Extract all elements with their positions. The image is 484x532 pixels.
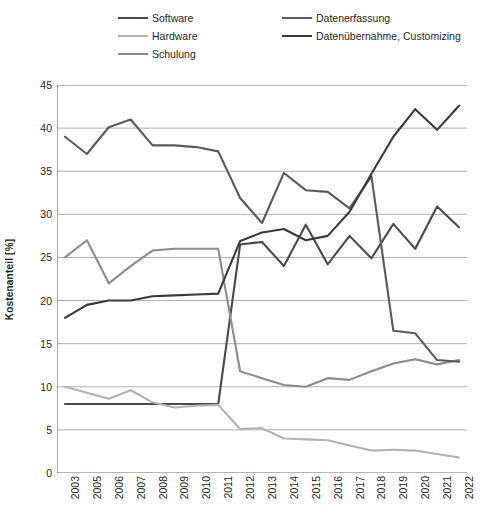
x-tick-label: 2006 [113,476,125,499]
x-tick-label: 2010 [200,476,212,499]
y-axis-ticks: 051015202530354045 [26,85,52,473]
series-line-daten-bernahme-customizing [65,106,459,318]
y-tick-label: 5 [28,424,52,436]
series-line-hardware [65,387,459,458]
legend-swatch-icon [118,17,148,20]
legend-label: Schulung [152,48,196,60]
chart-legend: SoftwareHardwareSchulungDatenerfassungDa… [0,12,484,68]
legend-swatch-icon [118,53,148,56]
legend-swatch-icon [282,35,312,38]
y-tick-label: 45 [28,79,52,91]
x-tick-label: 2021 [441,476,453,499]
x-tick-label: 2022 [463,476,475,499]
series-line-schulung [65,240,459,387]
legend-label: Software [152,12,193,24]
legend-item-datenerfassung: Datenerfassung [282,12,390,24]
y-tick-label: 0 [28,467,52,479]
y-tick-label: 20 [28,295,52,307]
x-tick-label: 2015 [310,476,322,499]
x-axis-ticks: 2003200520062007200820092010201120122013… [57,476,467,528]
legend-item-daten-bernahme-customizing: Datenübernahme, Customizing [282,30,461,42]
x-tick-label: 2017 [354,476,366,499]
y-tick-label: 25 [28,251,52,263]
plot-area [57,85,467,473]
x-tick-label: 2009 [178,476,190,499]
legend-item-schulung: Schulung [118,48,196,60]
x-tick-label: 2003 [69,476,81,499]
x-tick-label: 2012 [244,476,256,499]
legend-swatch-icon [118,35,148,38]
x-tick-label: 2016 [332,476,344,499]
legend-item-software: Software [118,12,193,24]
y-tick-label: 35 [28,165,52,177]
y-tick-label: 15 [28,338,52,350]
legend-swatch-icon [282,17,312,20]
chart-svg [57,85,467,473]
legend-item-hardware: Hardware [118,30,198,42]
legend-label: Datenübernahme, Customizing [316,30,461,42]
y-tick-label: 30 [28,208,52,220]
x-tick-label: 2019 [397,476,409,499]
x-tick-label: 2008 [157,476,169,499]
y-tick-label: 40 [28,122,52,134]
x-tick-label: 2011 [222,476,234,499]
x-tick-label: 2007 [135,476,147,499]
series-line-datenerfassung [65,119,459,361]
series-line-software [65,207,459,404]
y-tick-label: 10 [28,381,52,393]
x-tick-label: 2005 [91,476,103,499]
x-tick-label: 2013 [266,476,278,499]
y-axis-title-text: Kostenanteil [%] [5,238,16,320]
legend-label: Datenerfassung [316,12,390,24]
x-tick-label: 2014 [288,476,300,499]
legend-label: Hardware [152,30,198,42]
y-axis-title: Kostenanteil [%] [2,85,18,473]
x-tick-label: 2018 [375,476,387,499]
x-tick-label: 2020 [419,476,431,499]
